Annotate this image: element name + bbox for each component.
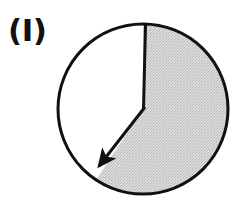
reference-radius-line: [144, 25, 146, 109]
figure-container: (I): [0, 0, 238, 218]
panel-label: (I): [8, 15, 46, 46]
